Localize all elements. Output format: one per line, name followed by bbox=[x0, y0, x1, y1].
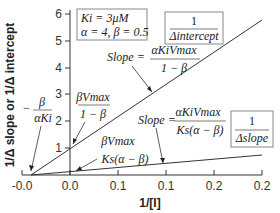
intercept-legend-box: 1 Δintercept bbox=[165, 12, 223, 44]
slope-legend-box: 1 Δslope bbox=[231, 111, 273, 147]
svg-text:α = 4, β = 0.5: α = 4, β = 0.5 bbox=[81, 25, 148, 39]
x-intercept-annotation: − β αKi bbox=[23, 95, 52, 171]
svg-text:βVmax: βVmax bbox=[75, 90, 110, 104]
chart: -0.0 0.0 0.1 0.1 0.2 0.2 1 2 3 4 5 6 1/[… bbox=[0, 0, 280, 213]
svg-text:1 − β: 1 − β bbox=[80, 107, 106, 121]
y-ticks bbox=[65, 14, 70, 148]
svg-text:Ki = 3μM: Ki = 3μM bbox=[80, 11, 129, 25]
svg-text:Slope =: Slope = bbox=[107, 50, 145, 64]
svg-text:0.2: 0.2 bbox=[206, 179, 223, 193]
svg-text:βVmax: βVmax bbox=[100, 134, 135, 148]
svg-text:Slope =: Slope = bbox=[138, 113, 176, 127]
upper-slope-annotation: Slope = αKiVmax 1 − β bbox=[107, 43, 200, 92]
x-tick-labels: -0.0 0.0 0.1 0.1 0.2 0.2 bbox=[12, 179, 271, 193]
lower-intercept-annotation: βVmax Ks(α − β) bbox=[76, 134, 149, 171]
svg-text:1 − β: 1 − β bbox=[161, 61, 187, 75]
svg-text:6: 6 bbox=[55, 7, 62, 21]
svg-text:Δintercept: Δintercept bbox=[168, 29, 219, 43]
svg-text:2: 2 bbox=[55, 114, 62, 128]
svg-text:0.2: 0.2 bbox=[254, 179, 271, 193]
svg-text:1: 1 bbox=[249, 114, 255, 128]
svg-text:0.0: 0.0 bbox=[62, 179, 79, 193]
svg-text:1: 1 bbox=[55, 141, 62, 155]
svg-text:-0.0: -0.0 bbox=[12, 179, 33, 193]
svg-text:αKiVmax: αKiVmax bbox=[152, 43, 198, 57]
y-axis-title: 1/Δ slope or 1/Δ intercept bbox=[3, 23, 17, 168]
svg-text:αKiVmax: αKiVmax bbox=[176, 105, 222, 119]
svg-text:0.1: 0.1 bbox=[110, 179, 127, 193]
svg-text:β: β bbox=[38, 95, 45, 109]
lower-slope-annotation: Slope = αKiVmax Ks(α − β) bbox=[138, 105, 226, 163]
svg-text:Δslope: Δslope bbox=[235, 131, 269, 145]
svg-text:1: 1 bbox=[191, 14, 197, 28]
svg-text:4: 4 bbox=[55, 61, 62, 75]
svg-text:0.1: 0.1 bbox=[158, 179, 175, 193]
svg-text:Ks(α − β): Ks(α − β) bbox=[175, 123, 223, 137]
svg-text:Ks(α − β): Ks(α − β) bbox=[100, 152, 148, 166]
svg-text:−: − bbox=[23, 101, 30, 115]
svg-text:5: 5 bbox=[55, 34, 62, 48]
svg-text:αKi: αKi bbox=[34, 111, 52, 125]
svg-text:3: 3 bbox=[55, 87, 62, 101]
params-box: Ki = 3μM α = 4, β = 0.5 bbox=[77, 9, 148, 40]
y-tick-labels: 1 2 3 4 5 6 bbox=[55, 7, 62, 155]
x-axis-title: 1/[I] bbox=[139, 196, 160, 210]
